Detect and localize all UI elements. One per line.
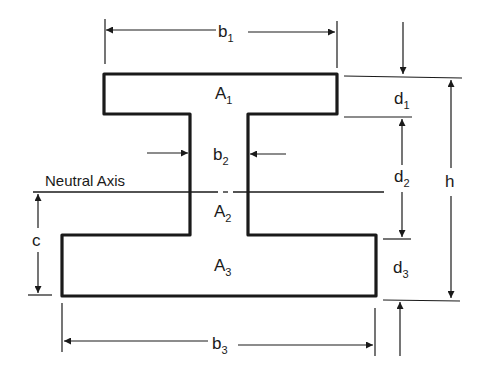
d2-label: d2 — [394, 167, 410, 189]
A1-label: A1 — [215, 84, 232, 106]
b1-label: b1 — [218, 22, 234, 44]
neutral-axis-label: Neutral Axis — [45, 172, 125, 189]
d1-label: d1 — [394, 89, 410, 111]
b3-label: b3 — [212, 334, 228, 356]
i-beam-diagram: Neutral Axis b1 b2 b3 A1 A2 A3 d1 d — [0, 0, 482, 371]
A3-label: A3 — [214, 256, 231, 278]
c-label: c — [32, 231, 41, 250]
h-label: h — [445, 172, 454, 191]
d3-label: d3 — [393, 258, 409, 280]
b2-label: b2 — [213, 145, 229, 167]
A2-label: A2 — [214, 202, 231, 224]
